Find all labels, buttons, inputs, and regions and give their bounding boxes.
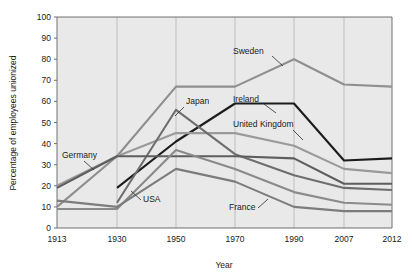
- y-tick-label: 70: [42, 75, 52, 85]
- y-tick-label: 50: [42, 118, 52, 128]
- y-axis-title: Percentage of employees unionized: [8, 55, 18, 190]
- x-axis-title: Year: [215, 260, 232, 270]
- series-label: Sweden: [233, 46, 264, 56]
- plot-area: [57, 17, 392, 228]
- series-label: USA: [143, 194, 161, 204]
- y-tick-label: 20: [42, 181, 52, 191]
- unionization-line-chart: 0102030405060708090100 19131930195019701…: [0, 0, 412, 274]
- x-tick-label: 1990: [285, 234, 304, 244]
- y-tick-label: 0: [46, 223, 51, 233]
- y-tick-label: 100: [37, 12, 51, 22]
- chart-canvas: 0102030405060708090100 19131930195019701…: [0, 0, 412, 274]
- x-tick-label: 2007: [335, 234, 354, 244]
- series-label: Japan: [186, 96, 209, 106]
- series-label: Ireland: [233, 94, 259, 104]
- x-tick-label: 1950: [167, 234, 186, 244]
- y-tick-label: 80: [42, 54, 52, 64]
- y-tick-label: 60: [42, 96, 52, 106]
- series-label: France: [229, 202, 256, 212]
- y-tick-label: 30: [42, 160, 52, 170]
- series-label: United Kingdom: [233, 119, 293, 129]
- series-label: Germany: [62, 150, 98, 160]
- x-tick-label: 1930: [108, 234, 127, 244]
- y-tick-label: 40: [42, 139, 52, 149]
- y-tick-label: 90: [42, 33, 52, 43]
- y-tick-label: 10: [42, 202, 52, 212]
- x-tick-label: 1913: [48, 234, 67, 244]
- x-tick-label: 1970: [226, 234, 245, 244]
- x-tick-label: 2012: [383, 234, 402, 244]
